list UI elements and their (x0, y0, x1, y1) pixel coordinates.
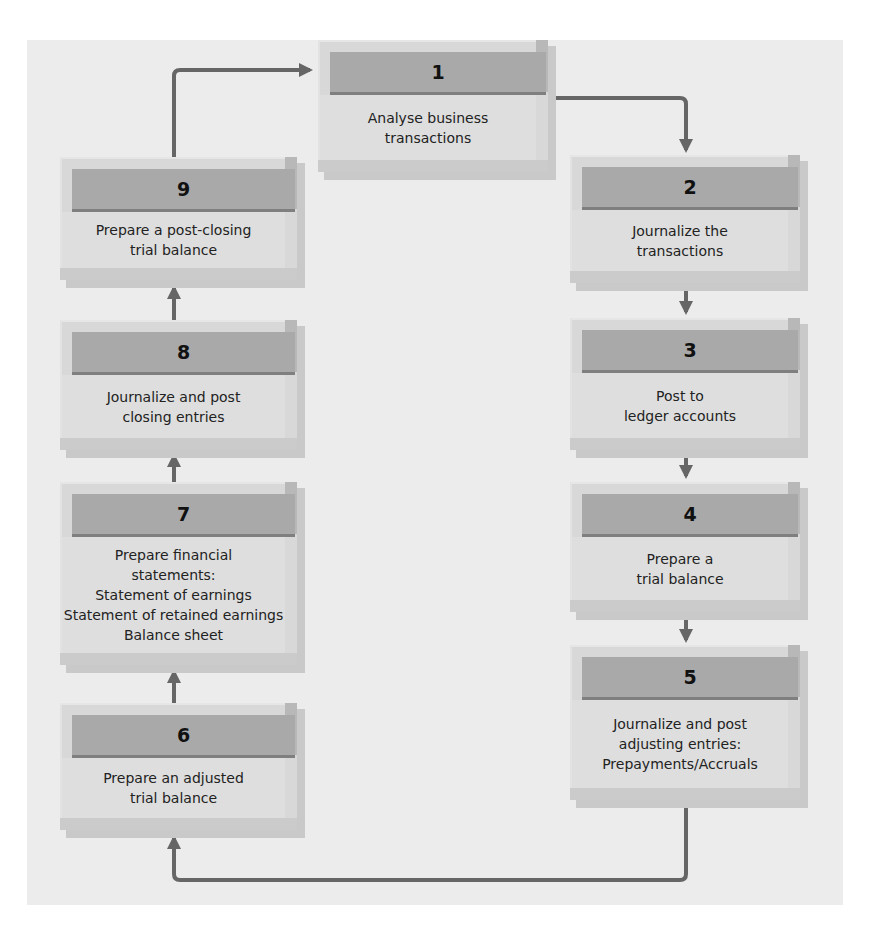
step-box-6: 6 Prepare an adjusted trial balance (60, 703, 297, 830)
step-description: Prepare an adjusted trial balance (62, 758, 285, 818)
step-text-line: Post to (656, 386, 704, 406)
step-text-line: trial balance (130, 788, 217, 808)
step-number: 9 (72, 169, 295, 212)
step-number: 5 (582, 657, 798, 700)
step-text-line: Analyse business (368, 108, 489, 128)
step-box-9: 9 Prepare a post-closing trial balance (60, 157, 297, 280)
step-description: Journalize and post adjusting entries: P… (572, 700, 788, 788)
step-box-7: 7 Prepare financial statements: Statemen… (60, 482, 297, 665)
step-text-line: Journalize the (632, 221, 728, 241)
step-text-line: Prepare a (647, 549, 714, 569)
step-text-line: Statement of retained earnings (64, 605, 283, 625)
step-text-line: Journalize and post (107, 387, 241, 407)
arrow-9-to-1 (174, 70, 310, 157)
step-number: 1 (330, 52, 546, 95)
step-text-line: Journalize and post (613, 714, 747, 734)
step-text-line: trial balance (636, 569, 723, 589)
step-text-line: Prepayments/Accruals (602, 754, 758, 774)
step-text-line: trial balance (130, 240, 217, 260)
step-text-line: adjusting entries: (619, 734, 741, 754)
step-number: 4 (582, 494, 798, 537)
step-box-5: 5 Journalize and post adjusting entries:… (570, 645, 800, 800)
step-text-line: closing entries (122, 407, 224, 427)
step-text-line: Prepare financial (115, 545, 232, 565)
step-number: 7 (72, 494, 295, 537)
step-description: Prepare a post-closing trial balance (62, 212, 285, 268)
step-box-3: 3 Post to ledger accounts (570, 318, 800, 450)
step-text-line: statements: (131, 565, 215, 585)
step-description: Post to ledger accounts (572, 373, 788, 438)
step-text-line: ledger accounts (624, 406, 736, 426)
step-number: 6 (72, 715, 295, 758)
step-box-2: 2 Journalize the transactions (570, 155, 800, 283)
step-description: Journalize and post closing entries (62, 375, 285, 438)
step-number: 2 (582, 167, 798, 210)
step-number: 8 (72, 332, 295, 375)
step-text-line: Prepare an adjusted (103, 768, 244, 788)
step-description: Analyse business transactions (320, 95, 536, 160)
step-box-4: 4 Prepare a trial balance (570, 482, 800, 612)
step-description: Prepare financial statements: Statement … (62, 537, 285, 653)
step-text-line: transactions (637, 241, 723, 261)
step-description: Prepare a trial balance (572, 537, 788, 600)
step-text-line: Statement of earnings (95, 585, 252, 605)
step-number: 3 (582, 330, 798, 373)
step-box-1: 1 Analyse business transactions (318, 40, 548, 172)
step-text-line: transactions (385, 128, 471, 148)
step-box-8: 8 Journalize and post closing entries (60, 320, 297, 450)
step-text-line: Balance sheet (124, 625, 223, 645)
step-text-line: Prepare a post-closing (96, 220, 252, 240)
arrow-1-to-2 (548, 98, 686, 150)
step-description: Journalize the transactions (572, 210, 788, 271)
